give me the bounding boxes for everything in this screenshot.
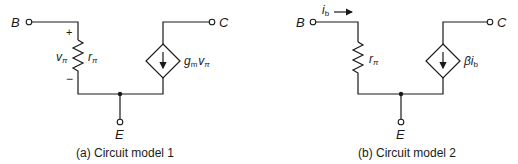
emitter-terminal[interactable]	[398, 119, 404, 125]
base-wire	[316, 22, 358, 42]
collector-wire	[443, 22, 487, 44]
resistor-r-pi	[353, 42, 443, 94]
collector-terminal-label: C	[497, 15, 507, 30]
gm-v-pi-label: gmvπ	[184, 54, 210, 69]
collector-wire	[163, 22, 209, 44]
collector-terminal[interactable]	[209, 19, 215, 25]
emitter-terminal-label: E	[396, 127, 405, 142]
emitter-terminal-label: E	[115, 127, 124, 142]
caption-b: (b) Circuit model 2	[358, 146, 456, 160]
collector-terminal-label: C	[219, 15, 229, 30]
base-terminal-label: B	[296, 15, 305, 30]
v-pi-label: vπ	[56, 50, 68, 65]
r-pi-label: rπ	[369, 52, 379, 67]
emitter-terminal[interactable]	[117, 119, 123, 125]
plus-sign: +	[66, 26, 72, 38]
r-pi-label: rπ	[88, 50, 98, 65]
minus-sign: −	[66, 72, 73, 86]
base-terminal[interactable]	[26, 19, 32, 25]
ib-label: ib	[322, 3, 330, 18]
circuit-model-2: B ib rπ βib C E (b) Circuit model 2	[296, 3, 507, 160]
circuit-model-1: B + − vπ rπ gmvπ C E (a) Circuit model 1	[11, 15, 229, 160]
beta-ib-label: βib	[463, 54, 479, 69]
resistor-r-pi	[73, 40, 163, 94]
base-terminal-label: B	[11, 15, 20, 30]
base-terminal[interactable]	[310, 19, 316, 25]
collector-terminal[interactable]	[487, 19, 493, 25]
caption-a: (a) Circuit model 1	[76, 146, 174, 160]
